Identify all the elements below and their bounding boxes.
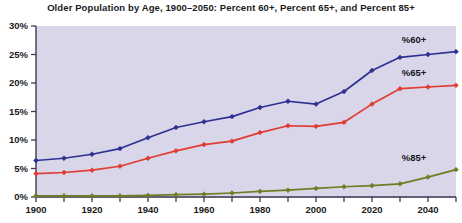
plot-area: 0%5%10%15%20%25%30% 19001920194019601980… — [0, 0, 462, 223]
x-tick-label: 1980 — [249, 204, 270, 215]
y-tick-label: 25% — [9, 49, 29, 60]
y-tick-label: 20% — [9, 77, 29, 88]
y-tick-label: 10% — [9, 134, 29, 145]
y-tick-label: 30% — [9, 20, 29, 31]
y-axis-labels: 0%5%10%15%20%25%30% — [9, 20, 29, 202]
x-tick-label: 1960 — [193, 204, 214, 215]
x-tick-label: 2020 — [361, 204, 382, 215]
x-tick-label: 2040 — [417, 204, 438, 215]
x-tick-label: 2000 — [305, 204, 326, 215]
y-tick-label: 15% — [9, 106, 29, 117]
chart-svg: 0%5%10%15%20%25%30% 19001920194019601980… — [0, 0, 462, 223]
x-axis-labels: 19001920194019601980200020202040 — [25, 204, 438, 215]
y-tick-label: 0% — [14, 191, 28, 202]
series-label-85: %85+ — [402, 152, 427, 163]
chart-page: Older Population by Age, 1900–2050: Perc… — [0, 0, 462, 223]
y-axis-ticks — [31, 26, 36, 197]
series-label-60: %60+ — [402, 34, 427, 45]
x-tick-label: 1900 — [25, 204, 46, 215]
x-tick-label: 1940 — [137, 204, 158, 215]
series-label-65: %65+ — [402, 67, 427, 78]
x-tick-label: 1920 — [81, 204, 102, 215]
y-tick-label: 5% — [14, 163, 28, 174]
